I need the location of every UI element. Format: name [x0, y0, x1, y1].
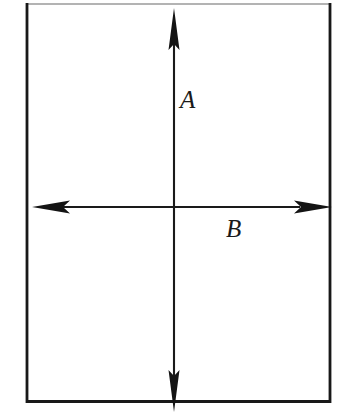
axes-diagram-canvas	[0, 0, 358, 419]
figure-container: A B	[0, 0, 358, 419]
vertical-axis-label: A	[180, 87, 195, 112]
horizontal-axis-label: B	[226, 216, 241, 241]
